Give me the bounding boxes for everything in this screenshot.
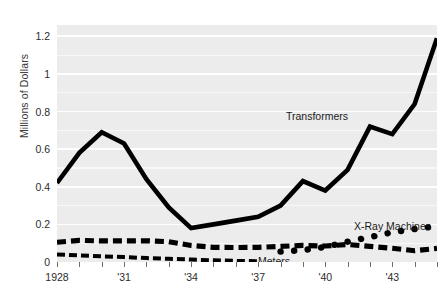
x-axis-tick [325,262,326,267]
x-axis-tick [258,262,259,267]
y-axis-tick-label: 0.6 [8,144,50,155]
x-axis-tick [57,262,58,267]
y-axis-tick-label: 0 [8,257,50,268]
series-line-meters [57,240,437,250]
x-axis-tick [415,262,416,267]
y-axis-tick-label: 0.4 [8,182,50,193]
x-axis-tick [124,262,125,267]
x-axis-tick [348,262,349,267]
x-axis-tick-label: 1928 [34,272,80,283]
x-axis-tick [236,262,237,267]
series-label-xray-machines: X-Ray Machines [354,221,431,232]
series-line-transformers [57,38,437,228]
x-axis-tick [281,262,282,267]
x-axis-tick [169,262,170,267]
x-axis-tick [392,262,393,267]
x-axis-tick-label: '43 [369,272,415,283]
y-axis-tick-label: 1 [8,69,50,80]
x-axis-tick-label: '34 [168,272,214,283]
x-axis-tick-label: '40 [302,272,348,283]
series-label-transformers: Transformers [286,111,348,122]
y-axis-tick-label: 0.8 [8,107,50,118]
x-axis-tick [191,262,192,267]
x-axis-tick [370,262,371,267]
y-axis-tick-label: 0.2 [8,219,50,230]
x-axis-tick [213,262,214,267]
x-axis-tick-label: '37 [235,272,281,283]
series-line-audio-trs [57,254,258,261]
x-axis-tick [79,262,80,267]
series-label-meters: Meters [258,256,290,262]
plot-area: Transformers X-Ray Machines Meters Audio… [57,25,437,262]
x-axis-tick-label: '31 [101,272,147,283]
x-axis-tick [102,262,103,267]
x-axis-tick [303,262,304,267]
chart-figure: Millions of Dollars 00.20.40.60.811.2 Tr… [0,0,444,299]
x-axis-tick [437,262,438,267]
y-axis-tick-label: 1.2 [8,31,50,42]
x-axis-tick [146,262,147,267]
